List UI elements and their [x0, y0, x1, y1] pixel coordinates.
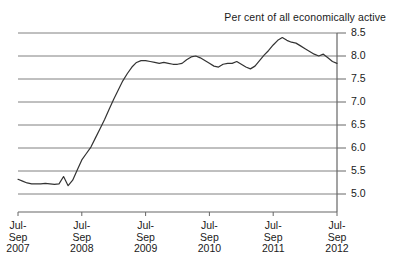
gridlines-group — [18, 33, 337, 194]
y-axis-tick-label: 6.5 — [351, 119, 366, 130]
x-axis-tick-label: Jul-Sep2008 — [60, 220, 104, 255]
x-axis-tick-label-line: 2009 — [124, 243, 168, 255]
x-axis-tick-label-line: 2010 — [187, 243, 231, 255]
y-axis-tick-label: 5.5 — [351, 165, 366, 176]
y-axis-tick-label: 8.5 — [351, 27, 366, 38]
x-axis-tick-label: Jul-Sep2007 — [0, 220, 40, 255]
data-series-line — [18, 38, 337, 186]
x-axis-tick-label: Jul-Sep2009 — [124, 220, 168, 255]
x-axis-tick-label-line: Jul- — [60, 220, 104, 232]
x-axis-tick-label-line: Jul- — [0, 220, 40, 232]
x-tick-marks-group — [18, 212, 337, 216]
x-axis-tick-label-line: 2008 — [60, 243, 104, 255]
y-tick-marks-group — [337, 33, 346, 194]
axes-group — [18, 33, 337, 212]
y-axis-tick-label: 7.5 — [351, 73, 366, 84]
x-axis-tick-label-line: Jul- — [124, 220, 168, 232]
x-axis-tick-label: Jul-Sep2010 — [187, 220, 231, 255]
x-axis-tick-label: Jul-Sep2012 — [315, 220, 359, 255]
x-axis-tick-label: Jul-Sep2011 — [251, 220, 295, 255]
unemployment-rate-chart: Per cent of all economically active 8.58… — [0, 0, 394, 276]
x-axis-tick-label-line: 2011 — [251, 243, 295, 255]
x-axis-tick-label-line: 2012 — [315, 243, 359, 255]
x-axis-tick-label-line: 2007 — [0, 243, 40, 255]
y-axis-tick-label: 8.0 — [351, 50, 366, 61]
y-axis-tick-label: 6.0 — [351, 142, 366, 153]
y-axis-tick-label: 7.0 — [351, 96, 366, 107]
x-axis-tick-label-line: Jul- — [251, 220, 295, 232]
x-axis-tick-label-line: Jul- — [315, 220, 359, 232]
y-axis-tick-label: 5.0 — [351, 188, 366, 199]
x-axis-tick-label-line: Jul- — [187, 220, 231, 232]
